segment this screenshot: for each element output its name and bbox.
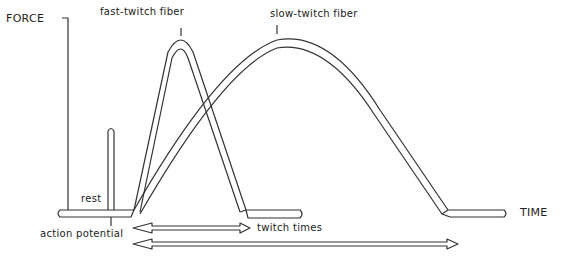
- twitch-diagram: FORCE fast-twitch fiber slow-twitch fibe…: [0, 0, 562, 264]
- slow-twitch-curve: [134, 39, 448, 210]
- time-axis-label: TIME: [520, 206, 548, 219]
- baseline-bar: [58, 210, 134, 217]
- slow-twitch-time-arrow: [133, 239, 458, 249]
- fast-twitch-label: fast-twitch fiber: [100, 6, 184, 17]
- action-potential-spike: [108, 129, 114, 211]
- force-axis-label: FORCE: [6, 12, 44, 25]
- rest-label: rest: [81, 193, 101, 204]
- fast-twitch-time-arrow: [133, 223, 250, 233]
- action-potential-label: action potential: [40, 228, 123, 239]
- twitch-times-label: twitch times: [257, 222, 322, 233]
- force-axis: [62, 18, 68, 210]
- slow-twitch-label: slow-twitch fiber: [270, 8, 358, 19]
